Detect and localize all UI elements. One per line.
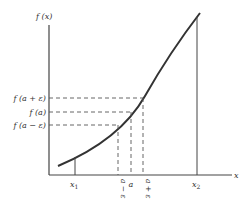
- x-axis-label: x: [234, 171, 239, 180]
- label-f-a-plus-eps: f (a + ε): [12, 94, 46, 103]
- label-f-a-minus-eps: f (a − ε): [12, 121, 46, 130]
- x1-label: x1: [70, 180, 78, 190]
- x2-label: x2: [192, 180, 201, 190]
- label-f-a: f (a): [28, 108, 46, 117]
- a-label: a: [129, 180, 134, 189]
- a-minus-eps-label: a − ε: [119, 179, 128, 199]
- y-axis-label: f (x): [35, 12, 52, 21]
- a-plus-eps-label: a + ε: [144, 179, 153, 199]
- function-curve: [58, 13, 200, 166]
- function-interval-diagram: f (x) f (a + ε) f (a) f (a − ε) x x1 x2 …: [0, 0, 252, 209]
